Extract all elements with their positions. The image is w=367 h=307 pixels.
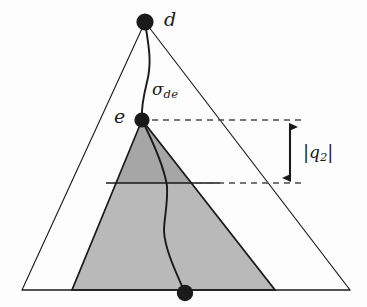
label-vertex-e-text: e	[114, 105, 125, 127]
geodesic-path-sigma-de	[142, 22, 150, 120]
sigma-glyph: σ	[152, 79, 164, 99]
label-vertex-e: e	[114, 105, 125, 127]
vertex-dot-d	[136, 13, 153, 30]
sigma-subscript: de	[164, 87, 179, 101]
q2-close-bar: |	[327, 141, 333, 162]
inner-triangle-upper-shade	[60, 110, 290, 183]
label-vertex-d: d	[164, 8, 176, 30]
q2-symbol: q	[309, 142, 320, 162]
inner-triangle-lower-shade	[60, 183, 290, 295]
label-vertex-d-text: d	[164, 8, 176, 30]
label-geodesic-sigma-de: σde	[152, 79, 178, 101]
vertex-dot-e	[134, 112, 149, 127]
vertex-dot-path-end	[177, 285, 193, 301]
label-q2-magnitude: |q2|	[303, 141, 333, 164]
figure-container: d e σde |q2|	[0, 0, 367, 307]
